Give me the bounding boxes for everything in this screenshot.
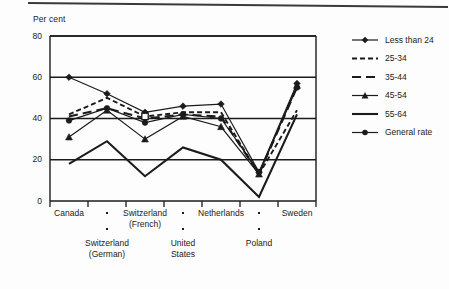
data-point-marker [294, 85, 300, 91]
legend-entry-label: 35-44 [385, 72, 407, 82]
data-point-marker [104, 90, 111, 97]
data-point-marker [218, 101, 225, 108]
label-leader-dot [258, 228, 260, 230]
y-axis-tick-label: 0 [20, 196, 42, 206]
x-axis-category-label: Canada [29, 208, 109, 219]
x-axis-category-label: Switzerland(French) [105, 208, 185, 229]
legend-marker [362, 37, 369, 44]
data-point-marker [180, 112, 186, 118]
data-point-marker [104, 105, 110, 111]
series-line [66, 82, 301, 177]
legend-entry-label: General rate [385, 127, 432, 137]
label-leader-dot [106, 228, 108, 230]
data-point-marker [218, 116, 224, 122]
data-point-marker [66, 134, 73, 140]
data-point-marker [180, 103, 187, 110]
data-point-marker [256, 169, 262, 175]
label-leader-dot [258, 212, 260, 214]
y-axis-tick-label: 60 [20, 72, 42, 82]
series-line [69, 114, 297, 197]
data-point-marker [142, 120, 148, 126]
x-axis-category-label: Sweden [257, 208, 337, 219]
x-axis-category-label: UnitedStates [143, 238, 223, 259]
data-point-marker [142, 113, 148, 119]
y-axis-tick-label: 40 [20, 113, 42, 123]
label-leader-dot [106, 212, 108, 214]
legend-entry-label: 45-54 [385, 90, 407, 100]
legend-entry-label: Less than 24 [385, 35, 434, 45]
legend-marker [362, 130, 368, 136]
x-axis-category-label: Switzerland(German) [67, 238, 147, 259]
x-axis-category-label: Poland [219, 238, 299, 249]
label-leader-dot [182, 228, 184, 230]
legend-entry-label: 25-34 [385, 53, 407, 63]
x-axis-category-label: Netherlands [181, 208, 261, 219]
label-leader-dot [182, 212, 184, 214]
y-axis-tick-label: 80 [20, 31, 42, 41]
y-axis-tick-label: 20 [20, 154, 42, 164]
legend-entry-label: 55-64 [385, 109, 407, 119]
chart-page: Per cent 020406080CanadaSwitzerland(Fren… [0, 0, 449, 289]
data-point-marker [66, 118, 72, 124]
data-point-marker [66, 74, 73, 81]
